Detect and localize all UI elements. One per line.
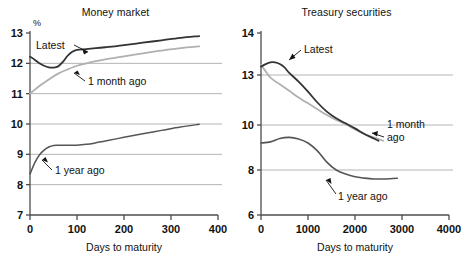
y-tick-label: 10 xyxy=(242,119,254,131)
y-tick-label: 8 xyxy=(17,179,23,191)
yield-curve-figure: Money market 78910111213%0100200300400Da… xyxy=(0,0,463,260)
money-market-plot: 78910111213%0100200300400Days to maturit… xyxy=(0,0,231,260)
x-tick-label: 4000 xyxy=(437,223,461,235)
x-tick-label: 300 xyxy=(162,223,180,235)
y-tick-label: 12 xyxy=(11,57,23,69)
x-tick-label: 200 xyxy=(115,223,133,235)
x-tick-label: 0 xyxy=(258,223,264,235)
series-label-one-month-line1: 1 month xyxy=(387,118,425,130)
series-label-one-month: 1 month ago xyxy=(88,75,147,87)
y-tick-label: 7 xyxy=(17,209,23,221)
series-label-latest: Latest xyxy=(304,43,333,55)
y-tick-label: 14 xyxy=(242,27,255,39)
series-line xyxy=(261,62,379,141)
series-label-latest: Latest xyxy=(36,39,65,51)
y-tick-label: 13 xyxy=(11,27,23,39)
x-tick-label: 3000 xyxy=(390,223,414,235)
series-label-one-year: 1 year ago xyxy=(338,190,388,202)
arrowhead-latest xyxy=(289,54,296,61)
series-line xyxy=(261,137,397,179)
y-tick-label: 6 xyxy=(248,209,254,221)
treasury-securities-plot: 6810131401000200030004000Days to maturit… xyxy=(231,0,462,260)
y-tick-label: 10 xyxy=(11,118,23,130)
x-axis-title: Days to maturity xyxy=(86,241,163,253)
panel-treasury-securities: Treasury securities 68101314010002000300… xyxy=(231,0,462,260)
x-tick-label: 0 xyxy=(27,223,33,235)
series-label-one-year: 1 year ago xyxy=(55,164,105,176)
x-tick-label: 1000 xyxy=(296,223,320,235)
panel-money-market: Money market 78910111213%0100200300400Da… xyxy=(0,0,231,260)
y-axis-unit-label: % xyxy=(33,18,41,28)
series-line xyxy=(261,65,383,141)
y-tick-label: 11 xyxy=(11,88,23,100)
x-tick-label: 400 xyxy=(209,223,227,235)
x-axis-title: Days to maturity xyxy=(317,241,394,253)
series-label-one-month-line2: ago xyxy=(387,131,405,143)
y-tick-label: 13 xyxy=(242,69,254,81)
arrowhead-one-month xyxy=(74,71,80,76)
y-tick-label: 8 xyxy=(248,164,254,176)
x-tick-label: 2000 xyxy=(343,223,367,235)
y-tick-label: 9 xyxy=(17,148,23,160)
x-tick-label: 100 xyxy=(68,223,86,235)
arrowhead-one-year xyxy=(42,157,48,163)
